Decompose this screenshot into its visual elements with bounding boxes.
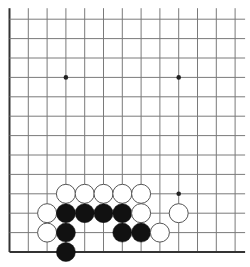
black-stone <box>113 223 132 242</box>
stones <box>38 184 189 261</box>
black-stone <box>56 204 75 223</box>
white-stone <box>113 184 132 203</box>
go-board-svg[interactable] <box>0 0 250 267</box>
white-stone <box>94 184 113 203</box>
star-point-icon <box>176 192 181 197</box>
black-stone <box>132 223 151 242</box>
black-stone <box>56 223 75 242</box>
white-stone <box>150 223 169 242</box>
white-stone <box>132 204 151 223</box>
white-stone <box>132 184 151 203</box>
star-point-icon <box>64 75 69 80</box>
black-stone <box>113 204 132 223</box>
white-stone <box>56 184 75 203</box>
black-stone <box>75 204 94 223</box>
white-stone <box>38 204 57 223</box>
black-stone <box>56 243 75 262</box>
white-stone <box>38 223 57 242</box>
white-stone <box>75 184 94 203</box>
go-board[interactable] <box>0 0 250 267</box>
star-point-icon <box>176 75 181 80</box>
white-stone <box>169 204 188 223</box>
black-stone <box>94 204 113 223</box>
